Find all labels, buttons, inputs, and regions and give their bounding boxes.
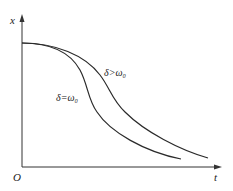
- curve-overdamped: [22, 43, 208, 158]
- y-axis: [20, 14, 25, 167]
- curve-critically-damped: [22, 43, 181, 159]
- x-axis: [22, 165, 222, 170]
- damping-diagram: x O t δ>ω₀ δ=ω₀: [0, 0, 233, 191]
- overdamped-label: δ>ω₀: [104, 68, 126, 78]
- critically-damped-label: δ=ω₀: [56, 93, 78, 103]
- x-axis-label: t: [214, 172, 217, 183]
- y-axis-label: x: [10, 15, 15, 26]
- origin-label: O: [13, 172, 21, 183]
- diagram-canvas: [0, 0, 233, 191]
